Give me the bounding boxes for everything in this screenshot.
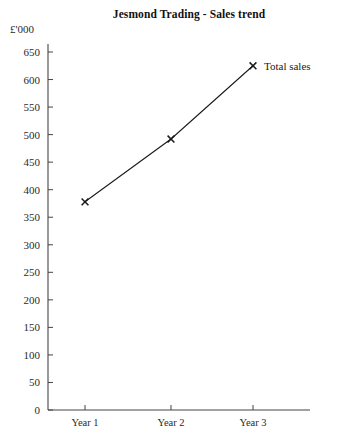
y-tick-label: 500 [4, 129, 40, 141]
series-label-total-sales: Total sales [264, 60, 311, 72]
y-tick-label: 550 [4, 101, 40, 113]
x-tick-label: Year 1 [53, 417, 117, 428]
x-tick-label: Year 3 [221, 417, 285, 428]
y-axis-ticks [48, 52, 53, 410]
y-tick-label: 300 [4, 239, 40, 251]
y-tick-label: 350 [4, 211, 40, 223]
chart-page: Jesmond Trading - Sales trend £'000 0501… [0, 0, 354, 444]
x-tick-label: Year 2 [139, 417, 203, 428]
y-tick-label: 450 [4, 156, 40, 168]
y-tick-label: 200 [4, 294, 40, 306]
y-tick-label: 600 [4, 74, 40, 86]
x-axis-ticks [85, 405, 253, 410]
data-point-marker-x [168, 136, 175, 143]
y-tick-label: 650 [4, 46, 40, 58]
chart-axes [48, 44, 310, 410]
y-tick-label: 0 [4, 404, 40, 416]
data-point-marker-x [82, 198, 89, 205]
series-line [85, 66, 253, 202]
y-tick-label: 150 [4, 321, 40, 333]
y-tick-label: 100 [4, 349, 40, 361]
y-tick-label: 400 [4, 184, 40, 196]
series-total-sales [82, 62, 257, 205]
y-tick-label: 250 [4, 266, 40, 278]
data-point-marker-x [250, 62, 257, 69]
y-tick-label: 50 [4, 376, 40, 388]
